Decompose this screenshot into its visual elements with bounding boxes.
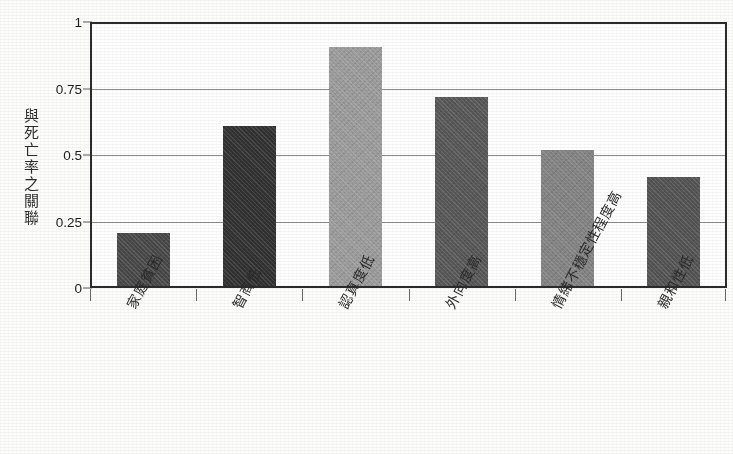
gridline	[92, 89, 725, 90]
x-axis-tick-mark	[409, 289, 410, 301]
bar	[223, 126, 276, 286]
y-axis-title-char: 關	[14, 193, 48, 210]
y-axis-tick-label: 0.5	[38, 148, 82, 163]
y-axis-tick-label: 0.25	[38, 214, 82, 229]
y-axis-title: 與死亡率之關聯	[14, 108, 48, 227]
x-axis-tick-mark	[302, 289, 303, 301]
x-axis-tick-mark	[196, 289, 197, 301]
y-axis-title-char: 之	[14, 176, 48, 193]
x-axis-tick-mark	[725, 289, 726, 301]
y-axis-tick-label: 0	[38, 281, 82, 296]
y-axis-tick-label: 1	[38, 15, 82, 30]
y-axis-title-char: 與	[14, 108, 48, 125]
gridline	[92, 222, 725, 223]
bar	[329, 47, 382, 286]
y-axis-title-char: 死	[14, 125, 48, 142]
y-axis-tick-label: 0.75	[38, 81, 82, 96]
x-axis-tick-mark	[90, 289, 91, 301]
x-axis-tick-mark	[515, 289, 516, 301]
bar-chart-figure: 與死亡率之關聯 00.250.50.751 家庭貧困智商低認真度低外向度高情緒不…	[0, 0, 733, 454]
bar-fill	[223, 126, 276, 286]
x-axis-tick-mark	[621, 289, 622, 301]
gridline	[92, 155, 725, 156]
bar-fill	[329, 47, 382, 286]
plot-area	[90, 22, 727, 288]
